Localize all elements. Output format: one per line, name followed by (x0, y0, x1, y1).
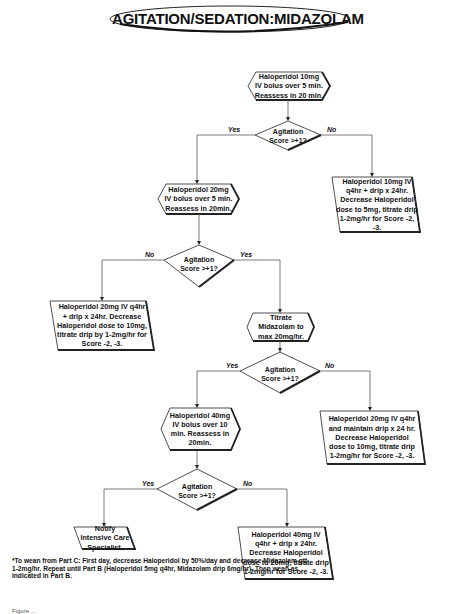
node-line: Reassess in 20min. (165, 204, 233, 213)
decision-line: Score >+1? (261, 375, 299, 382)
yes-label: Yes (240, 251, 252, 258)
node-line: q4hr + drip x 24hr. (243, 539, 329, 548)
decision-3: AgitationScore >+1? (240, 365, 320, 383)
node-line: 1-2mg/hr for Score -2, -3. (329, 451, 416, 460)
node-line: IV bolus over 10 (170, 420, 230, 429)
node-line: Haloperidol 10mg (255, 72, 323, 81)
no1-node: Haloperidol 10mg IVq4hr + drip x 24hr.De… (336, 178, 418, 231)
yes-label: Yes (226, 362, 238, 369)
node-line: Haloperidol 20mg IV q4hr (329, 414, 416, 423)
node-line: dose to 5mg, titrate drip (336, 205, 418, 214)
decision-1: AgitationScore >+1? (255, 127, 321, 145)
node-line: Haloperidol 40mg IV (243, 530, 329, 539)
node-line: 20min. (170, 438, 230, 447)
step3-node: TitrateMidazolam tomax 20mg/hr. (250, 313, 312, 341)
figure-caption: Figure ... (12, 608, 36, 614)
node-line: Reassess in 20 min. (255, 91, 323, 100)
node-line: Haloperidol 10mg IV (336, 177, 418, 186)
decision-line: Agitation (265, 366, 295, 373)
no-label: No (327, 126, 336, 133)
node-line: Haloperidol dose to 10mg, (57, 321, 147, 330)
node-line: dose to 10mg, titrate drip (329, 442, 416, 451)
wean-footnote: *To wean from Part C: First day, decreas… (12, 557, 312, 580)
node-line: Haloperidol 20mg (165, 185, 233, 194)
node-line: Midazolam to (258, 322, 304, 331)
node-line: max 20mg/hr. (258, 332, 304, 341)
node-line: + drip x 24hr. Decrease (57, 312, 147, 321)
node-line: IV bolus over 5 min. (165, 194, 233, 203)
node-line: Intensive Care (80, 533, 129, 542)
decision-line: Score >+1? (180, 265, 218, 272)
node-line: Titrate (258, 313, 304, 322)
decision-line: Agitation (184, 256, 214, 263)
node-line: Decrease Haloperidol (336, 195, 418, 204)
decision-line: Agitation (182, 483, 212, 490)
node-line: Decrease Haloperidol (329, 433, 416, 442)
start-node: Haloperidol 10mgIV bolus over 5 min.Reas… (250, 72, 328, 100)
chart-title: AGITATION/SEDATION:MIDAZOLAM (112, 8, 348, 30)
node-line: Haloperidol 20mg IV q4hr (57, 302, 147, 311)
decision-4: AgitationScore >+1? (157, 482, 237, 500)
no3-node: Haloperidol 20mg IV q4hrand maintain dri… (322, 412, 422, 463)
decision-line: Score >+1? (178, 492, 216, 499)
node-line: Notify (80, 524, 129, 533)
yes4-node: NotifyIntensive CareSpecialist. (77, 527, 133, 549)
yes-label: Yes (142, 480, 154, 487)
no-label: No (243, 480, 252, 487)
decision-line: Agitation (273, 128, 303, 135)
node-line: IV bolus over 5 min. (255, 81, 323, 90)
decision-2: AgitationScore >+1? (164, 255, 234, 273)
yes-label: Yes (228, 126, 240, 133)
no-label: No (145, 251, 154, 258)
node-line: Score -2, -3. (57, 339, 147, 348)
step4-node: Haloperidol 40mgIV bolus over 10min. Rea… (164, 408, 236, 450)
step2-node: Haloperidol 20mgIV bolus over 5 min.Reas… (160, 184, 237, 214)
node-line: titrate drip by 1-2mg/hr for (57, 330, 147, 339)
node-line: q4hr + drip x 24hr. (336, 186, 418, 195)
no2-node: Haloperidol 20mg IV q4hr+ drip x 24hr. D… (53, 302, 151, 349)
decision-line: Score >+1? (269, 137, 307, 144)
node-line: and maintain drip x 24 hr. (329, 424, 416, 433)
node-line: Haloperidol 40mg (170, 411, 230, 420)
no-label: No (325, 362, 334, 369)
node-line: Specialist. (80, 543, 129, 552)
node-line: min. Reassess in (170, 429, 230, 438)
node-line: 1-2mg/hr for Score -2, -3. (336, 214, 418, 232)
